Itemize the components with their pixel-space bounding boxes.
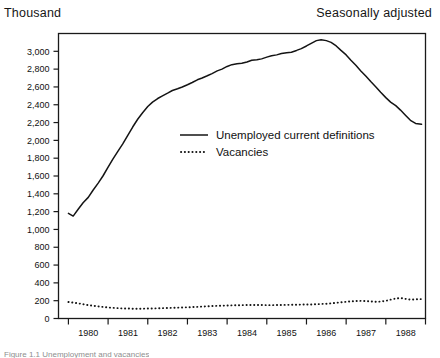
x-tick-label: 1985 [277, 328, 297, 338]
y-tick-label: 0 [44, 314, 49, 324]
y-tick-label: 800 [34, 242, 49, 252]
x-tick-label: 1981 [118, 328, 138, 338]
y-axis-ticks: 02004006008001,0001,2001,4001,6001,8002,… [27, 47, 59, 324]
y-tick-label: 400 [34, 278, 49, 288]
y-tick-label: 3,000 [27, 47, 50, 57]
figure-caption: Figure 1.1 Unemployment and vacancies [4, 350, 149, 358]
x-tick-label: 1982 [158, 328, 178, 338]
x-axis-ticks: 198019811982198319841985198619871988 [68, 319, 425, 338]
series-vacancies [68, 298, 421, 309]
x-tick-label: 1984 [237, 328, 257, 338]
y-tick-label: 600 [34, 260, 49, 270]
line-chart: 02004006008001,0001,2001,4001,6001,8002,… [0, 0, 440, 340]
x-tick-label: 1987 [356, 328, 376, 338]
y-tick-label: 2,000 [27, 136, 50, 146]
chart-legend: Unemployed current definitions Vacancies [180, 129, 375, 158]
series-unemployed-current-definitions [68, 40, 421, 216]
figure-container: Thousand Seasonally adjusted 02004006008… [0, 0, 440, 358]
y-tick-label: 2,800 [27, 64, 50, 74]
y-tick-label: 2,400 [27, 100, 50, 110]
y-tick-label: 2,200 [27, 118, 50, 128]
y-tick-label: 1,600 [27, 171, 50, 181]
y-tick-label: 200 [34, 296, 49, 306]
y-tick-label: 1,200 [27, 207, 50, 217]
y-tick-label: 1,800 [27, 153, 50, 163]
y-tick-label: 2,600 [27, 82, 50, 92]
x-tick-label: 1988 [396, 328, 416, 338]
plot-frame [59, 34, 426, 319]
legend-label-vacancies: Vacancies [216, 146, 268, 158]
legend-label-unemployed: Unemployed current definitions [216, 129, 375, 141]
x-tick-label: 1986 [316, 328, 336, 338]
y-tick-label: 1,000 [27, 225, 50, 235]
x-tick-label: 1983 [197, 328, 217, 338]
y-tick-label: 1,400 [27, 189, 50, 199]
x-tick-label: 1980 [78, 328, 98, 338]
